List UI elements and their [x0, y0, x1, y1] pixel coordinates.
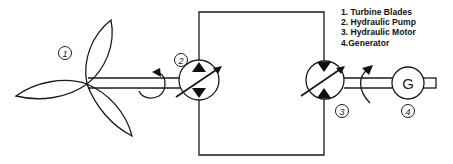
- callout-1: 1: [59, 47, 72, 60]
- legend-item-hydraulic-motor: 3. Hydraulic Motor: [341, 27, 416, 37]
- legend: 1. Turbine Blades 2. Hydraulic Pump 3. H…: [341, 7, 416, 48]
- output-shaft: [344, 78, 392, 88]
- legend-item-generator: 4.Generator: [341, 38, 416, 48]
- rotation-arrowhead-input: [152, 68, 161, 77]
- callout-3-label: 3: [339, 107, 344, 117]
- legend-item-turbine-blades: 1. Turbine Blades: [341, 7, 416, 17]
- wind-hydraulic-drivetrain-diagram: G 1 2 3 4 1. Turbine Blades 2. Hydraulic…: [0, 0, 453, 164]
- generator-symbol: G: [392, 67, 436, 99]
- callout-3: 3: [336, 105, 349, 118]
- hydraulic-motor-symbol: [301, 61, 345, 99]
- rotation-arrow-input: [139, 73, 165, 98]
- generator-stub: [423, 78, 436, 88]
- callout-2-label: 2: [177, 56, 183, 66]
- legend-item-hydraulic-pump: 2. Hydraulic Pump: [341, 17, 416, 27]
- rotation-arrow-output: [361, 70, 370, 103]
- blade-top: [86, 20, 112, 84]
- generator-letter: G: [402, 75, 414, 92]
- blade-bottom: [87, 84, 132, 136]
- callout-4-label: 4: [405, 107, 410, 117]
- callout-1-label: 1: [62, 49, 67, 59]
- blade-left: [16, 80, 87, 98]
- callout-4: 4: [402, 105, 415, 118]
- input-shaft: [88, 78, 180, 88]
- callout-2: 2: [175, 54, 188, 67]
